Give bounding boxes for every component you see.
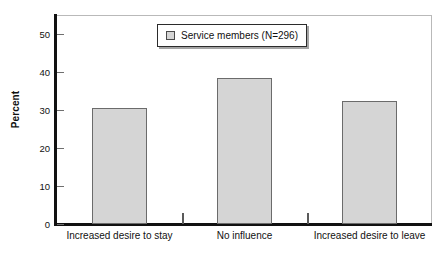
y-axis-tick (57, 110, 64, 111)
y-axis-title: Percent (10, 79, 21, 141)
legend-swatch-icon (166, 31, 175, 40)
y-axis-tick-label: 50 (22, 29, 50, 40)
y-axis-tick-label: 10 (22, 181, 50, 192)
y-axis-tick-label: 40 (22, 67, 50, 78)
y-axis-tick-label: 30 (22, 105, 50, 116)
x-axis-category-label: Increased desire to leave (314, 230, 426, 241)
y-axis-tick (57, 186, 64, 187)
x-axis-tick (182, 213, 184, 224)
y-axis-spine (54, 14, 57, 226)
y-axis-tick (57, 148, 64, 149)
bar (92, 108, 147, 224)
y-axis-tick-label: 20 (22, 143, 50, 154)
bar (217, 78, 272, 224)
y-axis-tick (57, 72, 64, 73)
bar-chart-figure: Percent 01020304050 Increased desire to … (0, 0, 447, 257)
bar (342, 101, 397, 224)
chart-legend: Service members (N=296) (157, 24, 307, 47)
y-axis-tick-label: 0 (22, 219, 50, 230)
legend-label: Service members (N=296) (181, 30, 298, 41)
x-axis-category-label: Increased desire to stay (66, 230, 172, 241)
y-axis-tick (57, 34, 64, 35)
x-axis-category-label: No influence (217, 230, 273, 241)
x-axis-tick (307, 213, 309, 224)
y-axis-tick (57, 224, 64, 225)
